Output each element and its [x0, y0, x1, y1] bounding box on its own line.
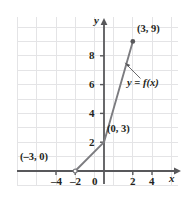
- endpoint-marker-filled: [130, 39, 135, 44]
- y-axis-label: y: [94, 15, 99, 26]
- x-tick-label-2: 2: [130, 176, 136, 187]
- x-tick-label-neg2: –2: [70, 176, 81, 187]
- graph-figure: 22. GRAPHING: [0, 0, 191, 199]
- y-tick-label-8: 8: [89, 50, 95, 61]
- x-axis-arrowhead: [174, 168, 181, 175]
- x-axis-label: x: [169, 173, 175, 184]
- y-tick-label-6: 6: [89, 79, 95, 90]
- label-point-neg3-0: (–3, 0): [20, 152, 48, 163]
- label-point-3-9: (3, 9): [137, 24, 160, 35]
- x-tick-label-0: 0: [92, 176, 98, 187]
- coordinate-plane: [0, 0, 191, 199]
- y-tick-label-4: 4: [89, 108, 95, 119]
- label-function-equation: y = f(x): [127, 78, 159, 89]
- label-point-0-3: (0, 3): [107, 124, 130, 135]
- y-axis-arrowhead: [101, 18, 108, 25]
- endpoint-marker-open: [73, 169, 77, 173]
- x-tick-label-4: 4: [149, 176, 155, 187]
- y-tick-label-2: 2: [89, 137, 95, 148]
- x-tick-label-neg4: –4: [51, 176, 62, 187]
